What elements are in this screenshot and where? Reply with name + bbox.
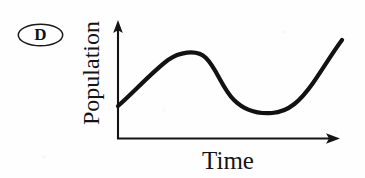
- panel-label-letter: D: [17, 23, 64, 47]
- population-curve: [118, 40, 342, 113]
- x-axis-title: Time: [150, 145, 306, 175]
- figure-root: D Population Time: [0, 0, 365, 178]
- panel-label-badge: D: [17, 23, 64, 47]
- y-axis-title: Population: [78, 0, 104, 148]
